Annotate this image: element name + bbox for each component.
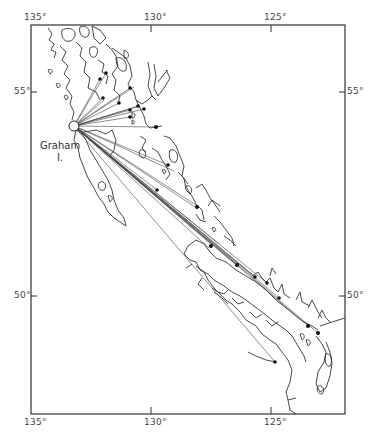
lat-label-55-right: 55° [347, 86, 364, 96]
origin-marker [69, 121, 79, 131]
origin-name: Graham [40, 140, 80, 152]
destination-dots [98, 71, 320, 364]
lon-label-125-top: 125° [264, 12, 287, 22]
map-figure [0, 0, 375, 438]
lon-label-130-top: 130° [144, 12, 167, 22]
coastline [48, 26, 345, 414]
lat-label-55-left: 55° [14, 86, 31, 96]
lon-label-125-bottom: 125° [264, 417, 287, 427]
origin-subname: I. [40, 152, 80, 164]
lat-label-50-right: 50° [347, 290, 364, 300]
origin-label: Graham I. [40, 140, 80, 164]
lon-label-135-bottom: 135° [24, 417, 47, 427]
radiating-lines [74, 73, 318, 362]
map-frame [31, 25, 345, 414]
lon-label-130-bottom: 130° [144, 417, 167, 427]
lon-label-135-top: 135° [24, 12, 47, 22]
lat-label-50-left: 50° [14, 290, 31, 300]
